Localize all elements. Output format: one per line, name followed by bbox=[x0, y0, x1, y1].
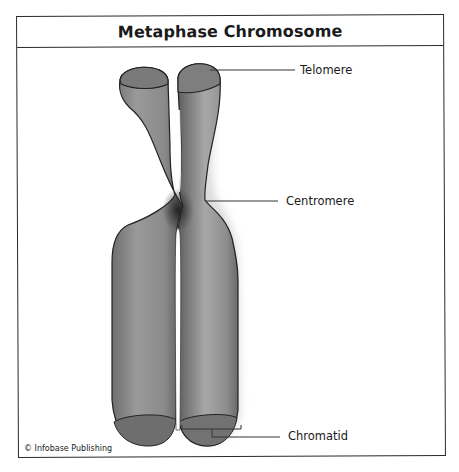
centromere-label: Centromere bbox=[286, 194, 354, 208]
publisher-credit: © Infobase Publishing bbox=[24, 444, 112, 453]
left-chromatid bbox=[110, 66, 182, 446]
right-chromatid bbox=[178, 64, 238, 446]
chromosome-illustration bbox=[0, 0, 459, 472]
centromere-shading bbox=[162, 188, 194, 232]
telomere-label: Telomere bbox=[300, 63, 352, 77]
chromatid-label: Chromatid bbox=[288, 429, 348, 443]
